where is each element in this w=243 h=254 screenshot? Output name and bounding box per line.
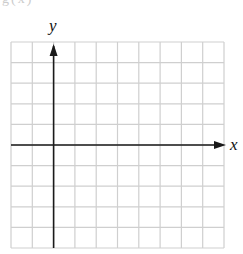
- y-axis-arrowhead-icon: [50, 44, 58, 56]
- y-axis-label: y: [49, 17, 57, 34]
- coordinate-plane: [0, 0, 243, 254]
- x-axis-label: x: [230, 136, 238, 153]
- axes: [11, 44, 226, 248]
